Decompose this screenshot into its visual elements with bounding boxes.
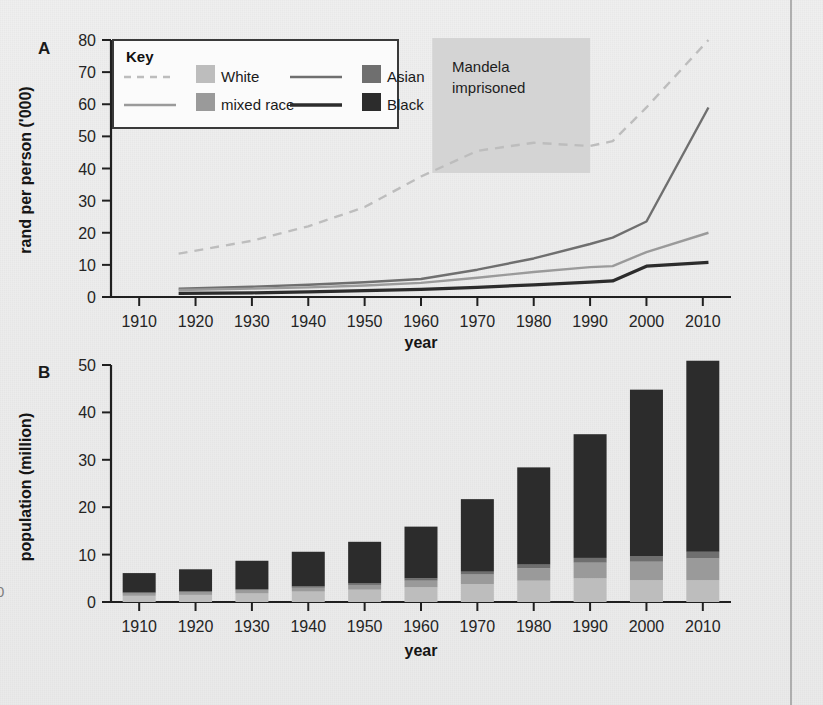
two-panel-figure: A Mandela imprisoned 01020304050607080 1… <box>0 0 790 705</box>
stacked-bar-1980 <box>517 467 550 602</box>
panel-a-y-tick-label: 40 <box>78 161 96 178</box>
bar-segment-white <box>123 596 156 602</box>
panel-a-x-tick-label: 1970 <box>460 313 496 330</box>
panel-b-y-tick-label: 50 <box>78 357 96 374</box>
bar-segment-asian <box>292 586 325 587</box>
bar-segment-white <box>235 593 268 602</box>
bar-segment-asian <box>179 591 212 592</box>
bar-segment-asian <box>630 556 663 562</box>
panel-b: B 01020304050 19101920193019401950196019… <box>17 357 731 659</box>
series-line-mixed-race <box>179 233 709 290</box>
bar-segment-white <box>179 595 212 602</box>
panel-a-x-axis-title: year <box>405 334 438 351</box>
figure-canvas: A Mandela imprisoned 01020304050607080 1… <box>0 0 790 705</box>
bar-segment-black <box>235 561 268 589</box>
panel-b-x-tick-label: 2010 <box>685 618 721 635</box>
bar-segment-white <box>348 590 381 602</box>
stacked-bar-1970 <box>461 499 494 602</box>
bar-segment-asian <box>517 565 550 569</box>
bar-segment-mixed-race <box>630 562 663 580</box>
panel-a-y-tick-label: 10 <box>78 257 96 274</box>
stacked-bar-1940 <box>292 552 325 602</box>
panel-b-y-tick-label: 20 <box>78 499 96 516</box>
panel-a-y-tick-label: 60 <box>78 96 96 113</box>
panel-b-x-tick-label: 1930 <box>234 618 270 635</box>
legend-label-black: Black <box>387 96 424 113</box>
mandela-annotation-line2: imprisoned <box>452 79 525 96</box>
panel-b-x-tick-label: 1960 <box>403 618 439 635</box>
bar-segment-black <box>574 434 607 558</box>
stacked-bar-1930 <box>235 561 268 602</box>
panel-b-x-tick-label: 1950 <box>347 618 383 635</box>
panel-a-x-ticks: 1910192019301940195019601970198019902000… <box>121 297 720 330</box>
bar-segment-asian <box>461 572 494 575</box>
panel-b-y-tick-label: 30 <box>78 452 96 469</box>
bar-segment-black <box>517 467 550 564</box>
bar-segment-asian <box>348 583 381 585</box>
panel-b-x-tick-label: 2000 <box>629 618 665 635</box>
bar-segment-mixed-race <box>179 592 212 595</box>
bar-segment-asian <box>686 552 719 559</box>
bar-segment-asian <box>405 578 438 580</box>
panel-b-x-tick-label: 1940 <box>290 618 326 635</box>
legend-title: Key <box>126 48 154 65</box>
panel-a-y-tick-label: 20 <box>78 225 96 242</box>
panel-a-x-tick-label: 1950 <box>347 313 383 330</box>
bar-segment-white <box>686 580 719 602</box>
page-margin-rule <box>790 0 792 705</box>
panel-b-x-axis-title: year <box>405 642 438 659</box>
legend-label-asian: Asian <box>387 68 425 85</box>
bar-segment-white <box>517 581 550 602</box>
bar-segment-white <box>461 584 494 602</box>
bar-segment-asian <box>235 589 268 590</box>
panel-a-x-tick-label: 1980 <box>516 313 552 330</box>
panel-a-x-tick-label: 1930 <box>234 313 270 330</box>
bar-segment-mixed-race <box>235 590 268 593</box>
bar-segment-black <box>630 390 663 556</box>
bar-segment-mixed-race <box>405 581 438 588</box>
panel-b-x-ticks: 1910192019301940195019601970198019902000… <box>121 602 720 635</box>
bar-segment-mixed-race <box>292 588 325 592</box>
bar-segment-black <box>686 361 719 552</box>
bar-segment-black <box>123 573 156 592</box>
panel-b-x-tick-label: 1920 <box>178 618 214 635</box>
bar-segment-mixed-race <box>348 585 381 590</box>
panel-a-y-tick-label: 50 <box>78 128 96 145</box>
bar-segment-white <box>630 580 663 602</box>
bar-segment-mixed-race <box>461 575 494 584</box>
panel-a-x-tick-label: 2010 <box>685 313 721 330</box>
panel-a-y-tick-label: 0 <box>87 289 96 306</box>
legend-key[interactable]: Key Whitemixed raceAsianBlack <box>113 40 425 128</box>
stacked-bar-1910 <box>123 573 156 602</box>
bar-segment-white <box>292 592 325 602</box>
panel-a: A Mandela imprisoned 01020304050607080 1… <box>17 32 731 351</box>
panel-b-x-tick-label: 1980 <box>516 618 552 635</box>
panel-a-letter: A <box>38 39 50 58</box>
panel-b-x-tick-label: 1970 <box>460 618 496 635</box>
mandela-annotation-line1: Mandela <box>452 58 510 75</box>
panel-a-y-ticks: 01020304050607080 <box>78 32 111 306</box>
legend-label-white: White <box>221 68 259 85</box>
panel-a-x-tick-label: 2000 <box>629 313 665 330</box>
panel-a-y-tick-label: 70 <box>78 64 96 81</box>
panel-b-bars <box>123 361 720 602</box>
stacked-bar-2000 <box>630 390 663 602</box>
stacked-bar-2010 <box>686 361 719 602</box>
panel-b-y-tick-label: 0 <box>87 594 96 611</box>
bar-segment-white <box>405 587 438 602</box>
stacked-bar-1950 <box>348 542 381 602</box>
panel-b-y-tick-label: 40 <box>78 404 96 421</box>
panel-a-x-tick-label: 1940 <box>290 313 326 330</box>
bar-segment-asian <box>574 558 607 563</box>
panel-a-x-tick-label: 1920 <box>178 313 214 330</box>
panel-a-x-tick-label: 1910 <box>121 313 157 330</box>
legend-swatch-mixed-race <box>196 93 215 111</box>
panel-a-y-tick-label: 30 <box>78 193 96 210</box>
bar-segment-black <box>348 542 381 583</box>
stacked-bar-1920 <box>179 569 212 602</box>
bar-segment-black <box>179 569 212 591</box>
panel-b-x-tick-label: 1910 <box>121 618 157 635</box>
bar-segment-black <box>292 552 325 587</box>
stacked-bar-1960 <box>405 527 438 602</box>
bar-segment-white <box>574 578 607 602</box>
